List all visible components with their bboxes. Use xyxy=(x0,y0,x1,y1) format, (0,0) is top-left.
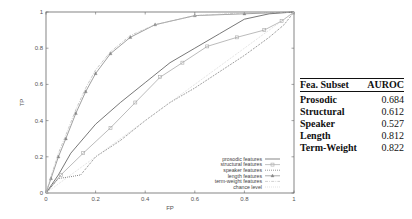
auroc-table: Fea. Subset AUROC Prosodic 0.684 Structu… xyxy=(300,78,404,154)
x-tick-label: 0.2 xyxy=(91,196,100,202)
roc-chart: 00.20.40.60.8100.20.40.60.81FPTP prosodi… xyxy=(0,0,300,219)
y-tick-label: 1 xyxy=(40,9,44,15)
subset-name: Term-Weight xyxy=(300,142,363,154)
y-tick-label: 0.6 xyxy=(35,81,44,87)
subset-name: Length xyxy=(300,130,363,142)
subset-name: Speaker xyxy=(300,118,363,130)
auroc-value: 0.812 xyxy=(363,130,404,142)
y-tick-label: 0 xyxy=(40,190,44,196)
auroc-value: 0.527 xyxy=(363,118,404,130)
x-tick-label: 1 xyxy=(292,196,296,202)
table-row: Prosodic 0.684 xyxy=(300,92,404,107)
auroc-value: 0.822 xyxy=(363,142,404,154)
legend-label: chance level xyxy=(233,184,262,190)
auroc-value: 0.612 xyxy=(363,106,404,118)
header-auroc: AUROC xyxy=(363,79,404,92)
subset-name: Structural xyxy=(300,106,363,118)
y-tick-label: 0.8 xyxy=(35,45,44,51)
x-tick-label: 0.8 xyxy=(240,196,249,202)
table-row: Term-Weight 0.822 xyxy=(300,142,404,154)
x-tick-label: 0 xyxy=(44,196,48,202)
y-tick-label: 0.2 xyxy=(35,154,44,160)
table-row: Structural 0.612 xyxy=(300,106,404,118)
x-tick-label: 0.4 xyxy=(141,196,150,202)
y-axis-label: TP xyxy=(19,99,25,107)
header-feature-subset: Fea. Subset xyxy=(300,79,363,92)
subset-name: Prosodic xyxy=(300,92,363,107)
table-row: Speaker 0.527 xyxy=(300,118,404,130)
y-tick-label: 0.4 xyxy=(35,118,44,124)
chart-legend: prosodic featuresstructural featuresspea… xyxy=(215,156,280,190)
x-axis-label: FP xyxy=(166,205,174,211)
table-row: Length 0.812 xyxy=(300,130,404,142)
x-tick-label: 0.6 xyxy=(191,196,200,202)
auroc-value: 0.684 xyxy=(363,92,404,107)
